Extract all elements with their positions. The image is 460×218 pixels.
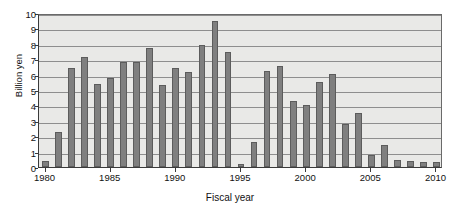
bar (133, 62, 140, 167)
bar (368, 155, 375, 167)
y-tick-label: 8 (0, 39, 36, 50)
bar (68, 68, 75, 167)
x-tick-label: 1985 (85, 172, 135, 183)
bar (290, 101, 297, 167)
bar (420, 162, 427, 167)
x-tick-label: 1990 (150, 172, 200, 183)
y-tick-label: 9 (0, 24, 36, 35)
x-axis-label: Fiscal year (0, 192, 460, 203)
bar (199, 45, 206, 167)
y-tick-label: 5 (0, 86, 36, 97)
bar (264, 71, 271, 167)
bar (433, 162, 440, 167)
bar (120, 62, 127, 167)
y-tick-label: 7 (0, 55, 36, 66)
bar (342, 124, 349, 167)
bar (407, 161, 414, 167)
bar (355, 113, 362, 167)
bar-series (39, 15, 441, 167)
y-tick-label: 6 (0, 70, 36, 81)
x-tick-mark (45, 168, 46, 172)
bar (251, 142, 258, 167)
bar (316, 82, 323, 167)
bar (225, 52, 232, 167)
bar (394, 160, 401, 167)
x-tick-mark (110, 168, 111, 172)
bar (212, 21, 219, 167)
bar (55, 132, 62, 167)
bar (185, 72, 192, 167)
plot-area (38, 14, 442, 168)
bar-chart: Billion yen 0123456789101980198519901995… (0, 0, 460, 218)
x-tick-mark (435, 168, 436, 172)
x-tick-mark (370, 168, 371, 172)
bar (107, 78, 114, 167)
x-tick-label: 2010 (410, 172, 460, 183)
bar (172, 68, 179, 167)
bar (238, 164, 245, 167)
bar (329, 74, 336, 167)
x-tick-mark (305, 168, 306, 172)
y-tick-label: 4 (0, 101, 36, 112)
bar (146, 48, 153, 167)
y-tick-label: 2 (0, 132, 36, 143)
y-tick-label: 3 (0, 116, 36, 127)
y-tick-label: 10 (0, 9, 36, 20)
bar (277, 66, 284, 167)
x-tick-label: 2005 (345, 172, 395, 183)
x-tick-mark (175, 168, 176, 172)
y-tick-label: 1 (0, 147, 36, 158)
bar (81, 57, 88, 167)
bar (381, 145, 388, 167)
x-tick-label: 2000 (280, 172, 330, 183)
bar (159, 85, 166, 167)
bar (94, 84, 101, 167)
x-tick-mark (240, 168, 241, 172)
bar (303, 105, 310, 167)
x-tick-label: 1995 (215, 172, 265, 183)
bar (42, 161, 49, 167)
x-tick-label: 1980 (20, 172, 70, 183)
